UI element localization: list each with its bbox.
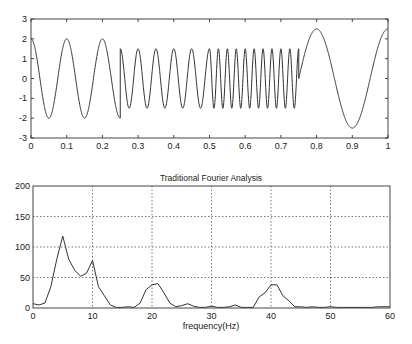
x-tick-label: 0.9 [346,141,359,151]
y-tick-label: 0 [22,74,27,84]
y-tick-label: -2 [19,113,27,123]
bottom-grid-lines [33,186,390,308]
x-tick-label: 0.3 [132,141,145,151]
x-tick-label: 0.5 [203,141,216,151]
y-tick-label: -3 [19,133,27,143]
chart-title: Traditional Fourier Analysis [160,173,262,183]
x-tick-label: 20 [147,311,157,321]
y-tick-label: -1 [19,93,27,103]
x-axis-label: frequency(Hz) [183,321,240,331]
y-tick-label: 1 [22,54,27,64]
y-tick-label: 50 [20,273,30,283]
y-tick-label: 0 [25,303,30,313]
bottom-axis-labels: 0102030405060200150100500 [15,181,395,321]
x-tick-label: 1 [385,141,390,151]
x-tick-label: 30 [206,311,216,321]
y-tick-label: 200 [15,181,30,191]
y-tick-label: 2 [22,34,27,44]
x-tick-label: 10 [87,311,97,321]
y-tick-label: 150 [15,212,30,222]
x-tick-label: 0.7 [275,141,288,151]
time-signal-line [31,29,388,128]
x-tick-label: 0.2 [96,141,109,151]
x-tick-label: 0.6 [239,141,252,151]
x-tick-label: 0.4 [168,141,181,151]
chart-figure: 00.10.20.30.40.50.60.70.80.913210-1-2-3 … [0,0,412,344]
y-tick-label: 3 [22,14,27,24]
x-tick-label: 0.8 [310,141,323,151]
time-signal-plot: 00.10.20.30.40.50.60.70.80.913210-1-2-3 [19,14,391,151]
x-tick-label: 60 [385,311,395,321]
y-tick-label: 100 [15,242,30,252]
fourier-spectrum-plot: 0102030405060200150100500 Traditional Fo… [15,173,395,331]
x-tick-label: 50 [325,311,335,321]
x-tick-label: 0 [28,141,33,151]
x-tick-label: 40 [266,311,276,321]
x-tick-label: 0.1 [60,141,73,151]
x-tick-label: 0 [30,311,35,321]
